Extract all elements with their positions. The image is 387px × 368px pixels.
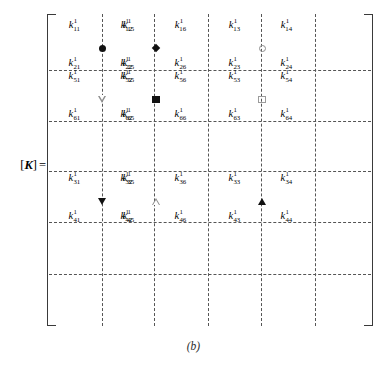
block-r1c4-symbol-slot xyxy=(210,41,314,53)
matrix-body: k111k112k121k122k115k116k125k126k113k114… xyxy=(47,14,373,326)
k-entry-66: k166 xyxy=(175,108,190,120)
block-r2c2-symbol-slot xyxy=(104,92,208,104)
k-entry-46: k146 xyxy=(175,210,190,222)
k-entry-45: k145 xyxy=(123,210,138,222)
block-r4c2: k135k136k145k146 xyxy=(104,172,208,222)
block-r2c2-bottom-row: k165k166 xyxy=(104,108,208,120)
label-close-bracket: ] xyxy=(33,158,37,172)
k-entry-55: k155 xyxy=(123,70,138,82)
open-tri-up-icon xyxy=(152,198,160,205)
open-square-icon xyxy=(258,96,266,104)
block-r1c2-bottom-row: k125k126 xyxy=(104,57,208,69)
k-entry-15: k115 xyxy=(123,19,138,31)
block-r1c4: k113k114k123k124 xyxy=(210,19,314,69)
k-entry-36: k136 xyxy=(175,172,190,184)
block-r4c2-bottom-row: k145k146 xyxy=(104,210,208,222)
global-stiffness-matrix-figure: [K]= k111k112k121k122k115k116k125k126k11… xyxy=(0,0,387,368)
matrix-label: [K]= xyxy=(2,158,46,172)
horizontal-partition-line-2 xyxy=(49,121,371,122)
filled-tri-up-icon xyxy=(258,198,266,205)
k-entry-51: k151 xyxy=(69,70,84,82)
figure-caption: (b) xyxy=(0,340,387,352)
k-entry-53: k153 xyxy=(229,70,244,82)
label-matrix-symbol: K xyxy=(24,158,32,172)
horizontal-partition-line-4 xyxy=(49,222,371,223)
block-r1c4-top-row: k113k114 xyxy=(210,19,314,31)
k-entry-16: k116 xyxy=(175,19,190,31)
block-r4c4-top-row: k133k134 xyxy=(210,172,314,184)
block-r1c4-bottom-row: k123k124 xyxy=(210,57,314,69)
k-entry-43: k143 xyxy=(229,210,244,222)
filled-diamond-icon xyxy=(152,44,160,52)
k-entry-56: k156 xyxy=(175,70,190,82)
block-r1c2: k115k116k125k126 xyxy=(104,19,208,69)
block-r2c4-symbol-slot xyxy=(210,92,314,104)
k-entry-34: k134 xyxy=(281,172,296,184)
k-entry-41: k141 xyxy=(69,210,84,222)
vertical-partition-line-5 xyxy=(315,14,316,326)
label-equals: = xyxy=(39,158,46,172)
k-entry-61: k161 xyxy=(69,108,84,120)
block-r2c4-bottom-row: k163k164 xyxy=(210,108,314,120)
vertical-partition-line-3 xyxy=(208,14,209,326)
k-entry-35: k135 xyxy=(123,172,138,184)
k-entry-33: k133 xyxy=(229,172,244,184)
filled-square-icon xyxy=(152,96,160,104)
block-r4c4: k133k134k143k144 xyxy=(210,172,314,222)
block-r1c2-top-row: k115k116 xyxy=(104,19,208,31)
horizontal-partition-line-5 xyxy=(49,274,371,275)
block-r4c2-symbol-slot xyxy=(104,194,208,206)
block-r2c4-top-row: k153k154 xyxy=(210,70,314,82)
k-entry-63: k163 xyxy=(229,108,244,120)
k-entry-11: k111 xyxy=(69,19,83,31)
k-entry-44: k144 xyxy=(281,210,296,222)
right-square-bracket xyxy=(364,14,373,326)
k-entry-31: k131 xyxy=(69,172,84,184)
k-entry-13: k113 xyxy=(229,19,244,31)
block-r2c4: k153k154k163k164 xyxy=(210,70,314,120)
block-r4c2-top-row: k135k136 xyxy=(104,172,208,184)
block-r4c4-bottom-row: k143k144 xyxy=(210,210,314,222)
k-entry-65: k165 xyxy=(123,108,138,120)
k-entry-54: k154 xyxy=(281,70,296,82)
open-circle-icon xyxy=(259,45,266,52)
block-r2c2-top-row: k155k156 xyxy=(104,70,208,82)
block-r1c2-symbol-slot xyxy=(104,41,208,53)
k-entry-14: k114 xyxy=(281,19,296,31)
block-r2c2: k155k156k165k166 xyxy=(104,70,208,120)
block-r4c4-symbol-slot xyxy=(210,194,314,206)
k-entry-64: k164 xyxy=(281,108,296,120)
